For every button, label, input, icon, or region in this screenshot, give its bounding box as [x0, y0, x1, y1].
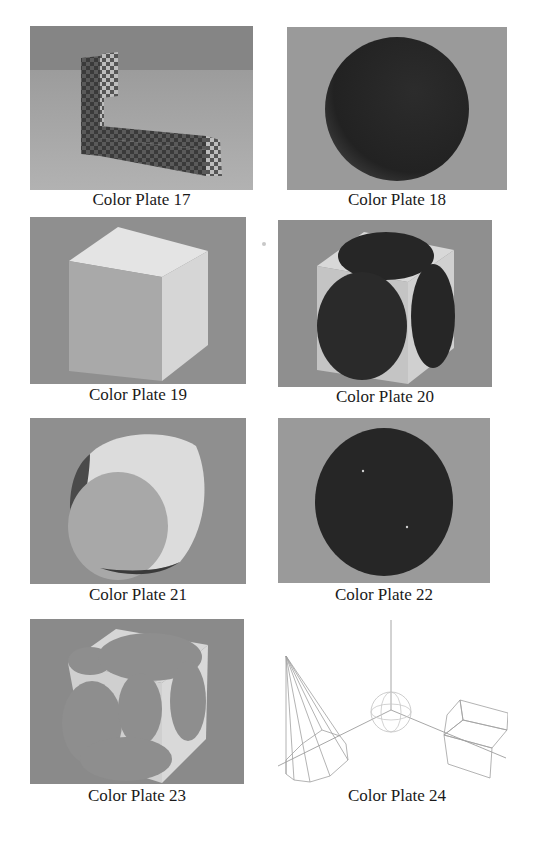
- plate-22-caption: Color Plate 22: [278, 585, 490, 605]
- plate-24-caption: Color Plate 24: [287, 786, 507, 806]
- plate-24-image: [278, 620, 508, 786]
- plate-22-image: [278, 418, 490, 583]
- plate-20-image: [278, 220, 492, 387]
- plate-23-image: [30, 619, 244, 784]
- plate-23-caption: Color Plate 23: [30, 786, 244, 806]
- plate-20-caption: Color Plate 20: [278, 387, 492, 407]
- plate-21-caption: Color Plate 21: [30, 585, 246, 605]
- plate-17-image: [30, 26, 253, 190]
- plate-19-caption: Color Plate 19: [30, 385, 246, 405]
- plate-21-image: [30, 418, 246, 584]
- plate-18-image: [287, 27, 507, 190]
- plate-19-image: [30, 217, 246, 384]
- page-speck: [262, 242, 266, 246]
- plate-18-caption: Color Plate 18: [287, 190, 507, 210]
- plate-17-caption: Color Plate 17: [30, 190, 253, 210]
